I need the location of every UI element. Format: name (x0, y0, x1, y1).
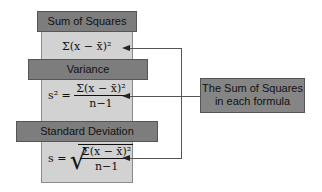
connector-to-callout (181, 96, 200, 97)
connector-sd (128, 158, 181, 159)
connector-vertical (181, 48, 182, 159)
variance-denominator: n−1 (74, 96, 127, 110)
callout-line-1: The Sum of Squares (201, 82, 304, 95)
formula-variance: s² = Σ(x − x̄)² n−1 (48, 82, 128, 110)
header-sum-of-squares: Sum of Squares (37, 11, 137, 32)
connector-variance (128, 96, 181, 97)
radical-icon: √ (70, 142, 87, 178)
variance-numerator: Σ(x − x̄)² (74, 82, 127, 96)
arrow-sd-icon (122, 155, 130, 161)
callout-line-2: in each formula (201, 95, 304, 108)
callout-box: The Sum of Squares in each formula (200, 78, 305, 113)
header-variance: Variance (28, 59, 148, 80)
sum-of-squares-expression: Σ(x − x̄)² (62, 40, 111, 53)
formula-sum-of-squares: Σ(x − x̄)² (62, 40, 111, 53)
variance-fraction: Σ(x − x̄)² n−1 (74, 82, 127, 110)
variance-lhs: s² = (48, 89, 71, 102)
arrow-ss-icon (122, 45, 130, 51)
sd-lhs: s = (48, 152, 66, 165)
formula-standard-deviation: s = √ Σ(x − x̄)² n−1 (48, 144, 133, 173)
connector-ss (128, 48, 181, 49)
header-standard-deviation: Standard Deviation (16, 121, 158, 142)
arrow-variance-icon (122, 93, 130, 99)
sd-denominator: n−1 (80, 159, 133, 173)
